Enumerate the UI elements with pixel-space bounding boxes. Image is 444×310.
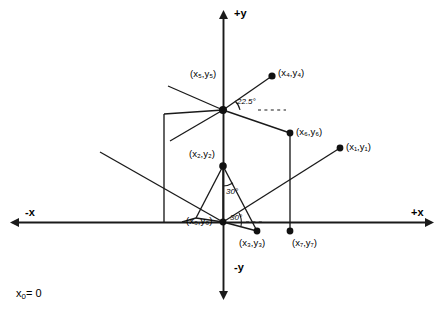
angle-label-30-apex: 30° — [226, 188, 238, 196]
axis-label-negative-x: -x — [25, 207, 35, 218]
polygon-edge-upper-left — [164, 110, 223, 114]
point-label-p0: (x₀,y₀) — [186, 216, 212, 226]
angle-arc-30-apex — [223, 183, 233, 186]
point-label-p1: (x₁,y₁) — [346, 142, 371, 152]
axis-label-negative-y: -y — [234, 262, 244, 273]
triangle-leg-left — [196, 166, 223, 218]
point-label-p2: (x₂,y₂) — [189, 149, 215, 159]
point-label-p4: (x₄,y₄) — [278, 68, 304, 78]
note-equals-value: = 0 — [26, 287, 42, 299]
diagram-canvas — [0, 0, 444, 310]
axis-label-positive-y: +y — [234, 8, 247, 19]
point-label-p3: (x₃,y₃) — [239, 238, 265, 248]
point-dot-p7[interactable] — [287, 228, 294, 235]
geometry-diagram: +y -y -x +x (x₀,y₀) (x₁,y₁) (x₂,y₂) (x₃,… — [0, 0, 444, 310]
x-axis-arrow-right — [425, 218, 434, 227]
point-dot-p2[interactable] — [219, 162, 227, 170]
polygon-outline-group — [164, 110, 290, 231]
x-axis-arrow-left — [10, 218, 19, 227]
y-axis-arrow-down — [219, 291, 228, 300]
polygon-edge-upper-right — [223, 110, 290, 133]
point-dot-p1[interactable] — [337, 145, 344, 152]
axis-label-positive-x: +x — [411, 207, 424, 218]
ray-p5-upper-left-extension — [168, 86, 223, 110]
diagonal-left-segment — [100, 152, 223, 222]
point-label-p5: (x₅,y₅) — [190, 69, 216, 79]
y-axis-arrow-up — [219, 10, 228, 19]
point-dot-p3[interactable] — [254, 228, 261, 235]
point-dot-p5[interactable] — [219, 106, 227, 114]
point-label-p7: (x₇,y₇) — [292, 238, 317, 248]
point-label-p6: (x₆,y₆) — [296, 127, 322, 137]
point-dot-p0[interactable] — [220, 219, 227, 226]
point-dot-p6[interactable] — [287, 130, 294, 137]
axis-arrowheads — [10, 10, 434, 300]
note-x0-equals-zero: x0= 0 — [16, 288, 42, 301]
diagonal-lines-group — [100, 148, 340, 222]
ray-p5-lower-left — [170, 110, 223, 141]
dashed-reference-group — [246, 110, 286, 222]
diagonal-right-segment — [223, 148, 340, 222]
angle-label-22-5: 22.5° — [237, 98, 256, 106]
angle-label-30-origin: 30° — [230, 214, 242, 222]
axis-group — [14, 14, 430, 296]
point-dot-p4[interactable] — [268, 72, 275, 79]
